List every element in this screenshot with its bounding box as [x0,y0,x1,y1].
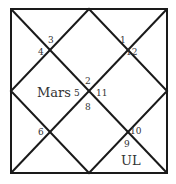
planet-labels: Mars UL [37,85,141,168]
planet-mars: Mars [37,85,71,100]
sign-label: 9 [124,139,130,149]
chart-frame [11,9,167,173]
sign-label: 8 [85,102,91,112]
kundli-chart: 1 12 3 4 2 5 11 8 6 10 9 Mars UL [0,0,176,184]
sign-label: 12 [126,47,137,57]
sign-label: 3 [48,35,54,45]
planet-ul: UL [121,153,141,168]
sign-label: 5 [74,88,80,98]
sign-label: 6 [38,127,44,137]
sign-label: 2 [85,76,91,86]
sign-label: 1 [120,35,126,45]
sign-label: 11 [96,88,107,98]
sign-label: 4 [38,47,44,57]
sign-label: 10 [130,126,142,136]
